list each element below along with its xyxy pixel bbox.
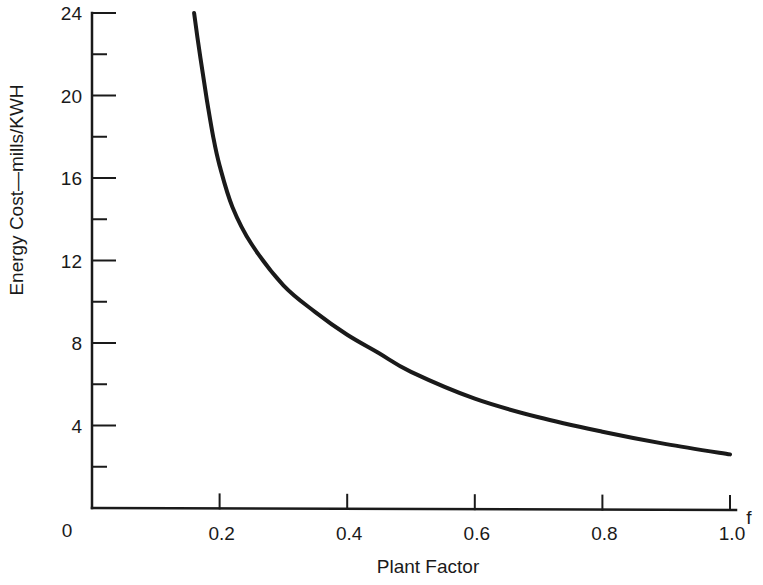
y-tick-label: 4 bbox=[71, 416, 82, 437]
y-tick-label: 16 bbox=[61, 168, 82, 189]
x-tick-label: 0.4 bbox=[336, 523, 363, 544]
x-tick-label: 0.2 bbox=[208, 523, 234, 544]
y-tick-label: 12 bbox=[61, 251, 82, 272]
x-axis-line bbox=[92, 508, 736, 510]
origin-label: 0 bbox=[62, 520, 73, 541]
energy-cost-curve bbox=[194, 13, 730, 454]
y-tick-label: 8 bbox=[71, 333, 82, 354]
ticks: 48121620240.20.40.60.81.0 bbox=[61, 3, 745, 544]
energy-cost-chart: 48121620240.20.40.60.81.0 0 f Plant Fact… bbox=[0, 0, 763, 585]
axes bbox=[92, 13, 736, 510]
y-axis-title: Energy Cost—mills/KWH bbox=[6, 84, 27, 295]
x-tick-label: 0.6 bbox=[464, 523, 490, 544]
x-tick-label: 0.8 bbox=[591, 523, 617, 544]
x-tick-label: 1.0 bbox=[719, 523, 745, 544]
x-axis-symbol: f bbox=[746, 507, 752, 528]
y-tick-label: 20 bbox=[61, 86, 82, 107]
x-axis-title: Plant Factor bbox=[377, 556, 480, 577]
y-tick-label: 24 bbox=[61, 3, 83, 24]
